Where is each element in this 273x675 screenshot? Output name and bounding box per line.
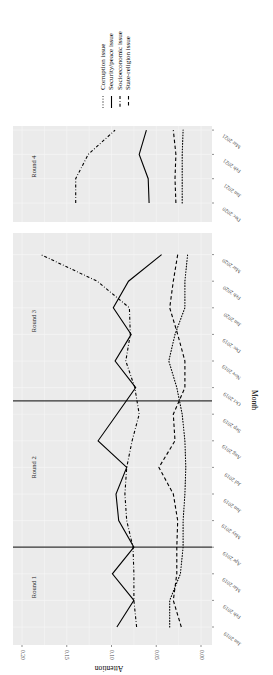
y-tick-label: 0.15 [64, 650, 70, 660]
x-tick-label: Feb 2020 [221, 285, 242, 302]
round-label: Round 2 [30, 456, 37, 478]
x-tick-label: Mar 2020 [221, 257, 242, 274]
x-tick-label: Dec 2019 [221, 337, 242, 354]
chart-legend: Corruption issueSecurity/peace issueSoci… [99, 31, 133, 108]
round-label: Round 3 [30, 310, 37, 332]
attention-line-chart: Corruption issueSecurity/peace issueSoci… [0, 0, 273, 675]
x-tick-label: Jan 2019 [222, 631, 242, 647]
x-tick-label: Oct 2019 [222, 391, 242, 408]
x-tick-label: Feb 2019 [221, 604, 242, 621]
x-axis-title: Month [250, 390, 259, 410]
x-tick-label: Jan 2021 [222, 183, 242, 199]
x-tick-label: Mar 2019 [221, 577, 242, 594]
legend-label: Socioeconomic issue [116, 31, 124, 90]
x-tick-label: Mar 2021 [221, 133, 242, 150]
legend-label: Security/peace issue [107, 33, 115, 90]
legend-label: State-religion issue [124, 36, 132, 90]
x-tick-label: Sep 2019 [221, 418, 242, 435]
x-tick-label: May 2019 [220, 523, 242, 541]
plot-panel-rounds-1-3: Round 1Round 2Round 3Jan 2019Feb 2019Mar… [13, 233, 242, 647]
panel-background [13, 233, 212, 645]
x-tick-label: Nov 2019 [220, 364, 242, 382]
y-tick-label: 0.20 [20, 650, 26, 660]
round-label: Round 1 [30, 576, 37, 598]
y-tick-label: 0.05 [154, 650, 160, 660]
x-tick-label: Apr 2019 [221, 550, 242, 567]
x-tick-label: Dec 2020 [221, 206, 242, 223]
x-tick-label: Aug 2019 [220, 443, 242, 461]
y-axis-attention: 0.000.050.100.150.20 [20, 645, 205, 660]
y-tick-label: 0.00 [199, 650, 205, 660]
x-tick-label: Jul 2019 [223, 472, 242, 488]
x-tick-label: Jan 2020 [222, 312, 242, 328]
plot-panel-round-4: Round 4Dec 2020Jan 2021Feb 2021Mar 2021 [13, 126, 242, 223]
x-tick-label: Feb 2021 [221, 158, 242, 175]
round-label: Round 4 [30, 155, 37, 178]
x-tick-label: Jun 2019 [222, 498, 242, 515]
legend-label: Corruption issue [99, 44, 107, 90]
y-axis-title: Attention [95, 664, 124, 673]
y-tick-label: 0.10 [109, 650, 115, 660]
